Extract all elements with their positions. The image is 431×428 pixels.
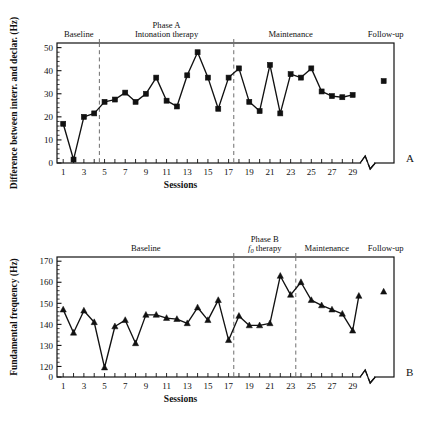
- data-point-marker: [81, 114, 86, 119]
- phase-label-text: f0 therapy: [248, 243, 282, 254]
- figure-container: BaselinePhase AIntonation therapyMainten…: [0, 0, 431, 428]
- x-tick-label: 23: [286, 381, 296, 391]
- data-point-marker: [122, 317, 128, 323]
- x-tick-label: 13: [183, 381, 193, 391]
- data-point-marker: [298, 75, 303, 80]
- phase-label-text: Maintenance: [305, 243, 350, 253]
- data-point-marker: [195, 50, 200, 55]
- data-point-marker: [194, 304, 200, 310]
- x-tick-label: 9: [144, 167, 149, 177]
- data-point-marker: [329, 94, 334, 99]
- x-tick-label: 29: [348, 167, 358, 177]
- x-tick-label: 23: [286, 167, 296, 177]
- data-point-marker: [288, 72, 293, 77]
- panel-b-x-tick-labels: 1357911131517192123252729: [61, 381, 358, 391]
- data-point-marker: [112, 97, 117, 102]
- panel-a-svg: BaselinePhase AIntonation therapyMainten…: [0, 0, 431, 214]
- x-tick-label: 5: [102, 167, 107, 177]
- x-tick-label: 25: [307, 381, 317, 391]
- y-tick-label: 0: [49, 158, 54, 168]
- panel-a-x-axis-title: Sessions: [164, 180, 198, 190]
- y-tick-label: 120: [40, 362, 54, 372]
- data-point-marker: [133, 99, 138, 104]
- data-point-marker: [112, 323, 118, 329]
- data-point-marker: [267, 320, 273, 326]
- phase-label-text: Follow-up: [368, 29, 404, 39]
- plot-frame: [57, 257, 394, 377]
- panel-b: BaselinePhase Bf0 therapyMaintenanceFoll…: [0, 214, 431, 428]
- phase-label-text: Baseline: [64, 29, 94, 39]
- data-point-marker: [205, 75, 210, 80]
- data-point-marker: [257, 109, 262, 114]
- plot-frame: [57, 43, 394, 163]
- x-tick-label: 5: [102, 381, 107, 391]
- x-tick-label: 3: [82, 167, 87, 177]
- panel-b-letter: B: [406, 366, 413, 378]
- panel-a-phase-labels: BaselinePhase AIntonation therapyMainten…: [64, 20, 404, 39]
- x-tick-label: 15: [203, 381, 213, 391]
- x-tick-label: 9: [144, 381, 149, 391]
- data-point-marker: [101, 364, 107, 370]
- data-point-marker: [236, 66, 241, 71]
- x-tick-label: 21: [265, 167, 274, 177]
- data-point-marker: [60, 306, 66, 312]
- x-tick-label: 3: [82, 381, 87, 391]
- x-tick-label: 27: [327, 167, 337, 177]
- data-point-marker: [164, 98, 169, 103]
- data-point-marker: [277, 273, 283, 279]
- x-tick-label: 17: [224, 167, 234, 177]
- data-point-marker: [123, 90, 128, 95]
- x-tick-label: 29: [348, 381, 358, 391]
- x-tick-label: 1: [61, 167, 66, 177]
- data-point-marker: [132, 340, 138, 346]
- x-tick-label: 7: [123, 167, 128, 177]
- phase-label-text: Baseline: [131, 243, 161, 253]
- data-point-marker: [215, 297, 221, 303]
- y-tick-label: 150: [40, 299, 54, 309]
- data-point-marker: [226, 337, 232, 343]
- data-point-marker: [356, 293, 362, 299]
- data-point-marker: [298, 279, 304, 285]
- followup-point-marker: [381, 288, 387, 294]
- data-point-marker: [143, 91, 148, 96]
- y-tick-label: 50: [44, 43, 54, 53]
- data-point-marker: [247, 99, 252, 104]
- x-tick-label: 11: [162, 167, 171, 177]
- panel-b-x-axis-title: Sessions: [164, 394, 198, 404]
- phase-label-text: Maintenance: [268, 29, 313, 39]
- data-point-marker: [185, 73, 190, 78]
- panel-a: BaselinePhase AIntonation therapyMainten…: [0, 0, 431, 214]
- y-tick-label: 130: [40, 341, 54, 351]
- data-point-marker: [174, 104, 179, 109]
- panel-a-y-tick-labels: 01020304050: [44, 43, 54, 168]
- panel-b-y-tick-labels: 1201301401501601700: [40, 256, 54, 382]
- y-tick-label: 40: [44, 66, 54, 76]
- panel-a-y-axis-title: Difference between interr. and declar. (…: [9, 17, 20, 189]
- panel-b-svg: BaselinePhase Bf0 therapyMaintenanceFoll…: [0, 214, 431, 428]
- x-tick-label: 15: [203, 167, 213, 177]
- phase-label-text: Follow-up: [368, 243, 404, 253]
- data-point-marker: [71, 157, 76, 162]
- data-point-marker: [102, 99, 107, 104]
- data-point-marker: [81, 307, 87, 313]
- data-point-marker: [70, 329, 76, 335]
- data-line: [63, 276, 359, 368]
- data-point-marker: [309, 66, 314, 71]
- x-tick-label: 13: [183, 167, 193, 177]
- panel-b-phase-labels: BaselinePhase Bf0 therapyMaintenanceFoll…: [131, 234, 404, 254]
- x-tick-label: 1: [61, 381, 66, 391]
- data-point-marker: [340, 95, 345, 100]
- data-point-marker: [154, 75, 159, 80]
- data-point-marker: [216, 106, 221, 111]
- data-point-marker: [278, 111, 283, 116]
- panel-a-letter: A: [406, 152, 414, 164]
- y-tick-label: 30: [44, 89, 54, 99]
- x-tick-label: 11: [162, 381, 171, 391]
- panel-b-plot: [57, 253, 394, 383]
- data-point-marker: [267, 62, 272, 67]
- x-tick-label: 25: [307, 167, 317, 177]
- y-tick-label: 160: [40, 277, 54, 287]
- phase-label-text: Intonation therapy: [135, 29, 199, 39]
- y-tick-label: 10: [44, 135, 54, 145]
- followup-point-marker: [381, 79, 386, 84]
